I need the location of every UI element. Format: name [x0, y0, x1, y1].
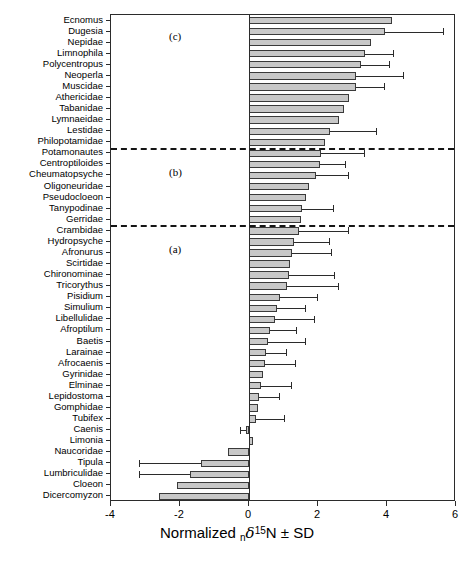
x-axis-title-suffix: N ± SD: [266, 524, 314, 541]
bar: [249, 327, 270, 334]
error-bar-cap: [139, 460, 140, 467]
error-bar-cap: [334, 272, 335, 279]
y-axis-label-cheumatopsyche: Cheumatopsyche: [29, 169, 103, 179]
error-bar-line: [259, 397, 280, 398]
error-bar-cap: [240, 427, 241, 434]
y-axis-label-polycentropus: Polycentropus: [43, 59, 103, 69]
error-bar-cap: [345, 161, 346, 168]
error-bar-cap: [376, 128, 377, 135]
y-axis-label-oligoneuridae: Oligoneuridae: [44, 181, 103, 191]
x-axis-tick-label: -4: [90, 508, 130, 520]
bar: [249, 271, 289, 278]
x-axis-tick-label: 4: [366, 508, 406, 520]
error-bar-cap: [317, 294, 318, 301]
bar: [190, 471, 249, 478]
bar: [249, 349, 266, 356]
error-bar-line: [365, 54, 394, 55]
bar: [249, 282, 287, 289]
error-bar-line: [361, 65, 390, 66]
group-divider-line-2: [111, 225, 454, 227]
y-axis-label-afrocaenis: Afrocaenis: [58, 358, 103, 368]
y-axis-label-potamonautes: Potamonautes: [42, 147, 103, 157]
zero-axis-line: [249, 15, 250, 500]
x-axis-tick-label: 2: [297, 508, 337, 520]
bar: [249, 305, 277, 312]
bar: [249, 61, 361, 68]
x-axis-title: Normalized nδ15N ± SD: [0, 524, 474, 543]
bar: [249, 404, 258, 411]
y-axis-label-muscidae: Muscidae: [62, 81, 103, 91]
error-bar-line: [385, 32, 444, 33]
bar: [249, 116, 339, 123]
bar: [249, 128, 330, 135]
error-bar-cap: [314, 316, 315, 323]
y-axis-label-scirtidae: Scirtidae: [66, 258, 103, 268]
bar: [249, 382, 261, 389]
y-axis-label-tricorythus: Tricorythus: [56, 280, 103, 290]
error-bar-cap: [329, 238, 330, 245]
error-bar-line: [294, 242, 330, 243]
bar: [249, 238, 294, 245]
x-axis-title-prefix: Normalized: [160, 524, 240, 541]
x-axis-tick: [110, 501, 111, 506]
panel-label-a: (a): [169, 243, 181, 255]
bar: [249, 249, 292, 256]
bar: [249, 150, 321, 157]
y-axis-label-philopotamidae: Philopotamidae: [38, 136, 104, 146]
bar: [249, 39, 371, 46]
error-bar-line: [139, 463, 201, 464]
bar: [177, 482, 249, 489]
y-axis-label-gomphidae: Gomphidae: [54, 402, 103, 412]
y-axis-label-pisidium: Pisidium: [67, 291, 103, 301]
y-axis-label-dicercomyzon: Dicercomyzon: [43, 490, 103, 500]
bar: [228, 448, 249, 455]
y-axis-label-lymnaeidae: Lymnaeidae: [52, 114, 103, 124]
error-bar-line: [277, 308, 306, 309]
x-axis-tick: [455, 501, 456, 506]
bar: [249, 338, 268, 345]
y-axis-label-simulium: Simulium: [64, 302, 103, 312]
y-axis-label-naucoridae: Naucoridae: [54, 446, 103, 456]
error-bar-line: [330, 131, 377, 132]
y-axis-label-chironominae: Chironominae: [44, 269, 103, 279]
error-bar-line: [139, 474, 191, 475]
error-bar-line: [270, 330, 298, 331]
y-axis-label-larainae: Larainae: [66, 347, 103, 357]
error-bar-cap: [305, 338, 306, 345]
error-bar-cap: [295, 360, 296, 367]
bar: [201, 460, 249, 467]
y-axis-label-libellulidae: Libellulidae: [55, 313, 103, 323]
y-axis-label-gerridae: Gerridae: [66, 214, 103, 224]
y-axis-label-elminae: Elminae: [69, 380, 103, 390]
error-bar-line: [356, 87, 385, 88]
y-axis-label-tipula: Tipula: [77, 457, 103, 467]
error-bar-line: [261, 386, 292, 387]
y-axis-label-limonia: Limonia: [70, 435, 103, 445]
y-axis-label-afroptilum: Afroptilum: [60, 324, 103, 334]
error-bar-line: [292, 253, 332, 254]
y-axis-label-hydropsyche: Hydropsyche: [48, 236, 103, 246]
error-bar-cap: [403, 72, 404, 79]
error-bar-cap: [331, 249, 332, 256]
bar: [159, 493, 249, 500]
bar: [249, 360, 265, 367]
x-axis-tick-label: 6: [435, 508, 474, 520]
error-bar-cap: [389, 61, 390, 68]
figure-root: EcnomusDugesiaNepidaeLimnophilaPolycentr…: [0, 0, 474, 563]
error-bar-line: [356, 76, 404, 77]
error-bar-cap: [348, 172, 349, 179]
error-bar-cap: [279, 393, 280, 400]
bar: [249, 194, 306, 201]
bar: [249, 371, 263, 378]
bar: [249, 393, 259, 400]
bar: [249, 50, 365, 57]
y-axis-label-pseudocloeon: Pseudocloeon: [43, 192, 103, 202]
y-axis-label-nepidae: Nepidae: [68, 37, 103, 47]
delta-symbol: δ: [246, 524, 255, 542]
error-bar-line: [266, 353, 287, 354]
bar: [249, 294, 280, 301]
error-bar-cap: [305, 305, 306, 312]
bar: [249, 83, 356, 90]
error-bar-cap: [139, 471, 140, 478]
bar: [249, 216, 301, 223]
